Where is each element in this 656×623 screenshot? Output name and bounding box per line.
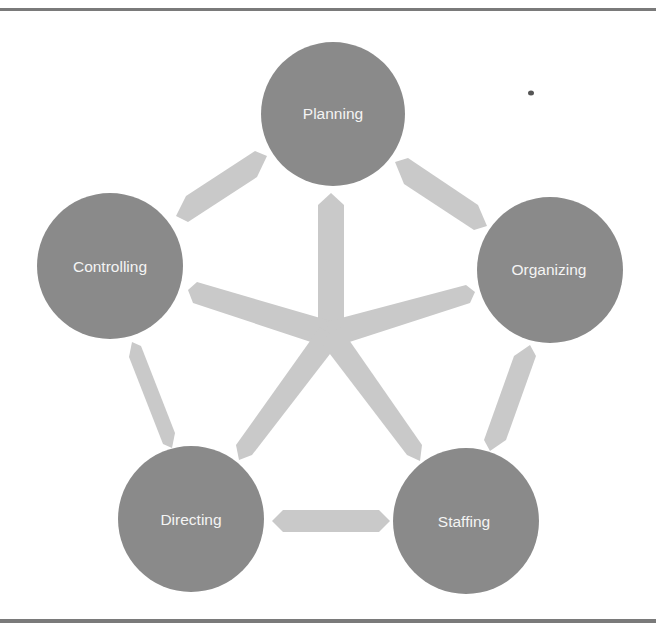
node-label: Directing <box>160 511 221 528</box>
arrow-planning-organizing <box>395 158 487 230</box>
node-label: Organizing <box>512 261 587 278</box>
node-planning: Planning <box>261 42 405 186</box>
node-label: Controlling <box>73 258 147 275</box>
spoke-directing <box>236 327 340 460</box>
speck-artifact <box>528 91 534 96</box>
node-directing: Directing <box>118 446 264 592</box>
node-label: Planning <box>303 105 363 122</box>
arrow-controlling-planning <box>176 151 267 222</box>
hub-spokes <box>188 193 475 461</box>
arrow-organizing-staffing <box>484 345 536 451</box>
node-label: Staffing <box>438 513 490 530</box>
spoke-organizing <box>326 285 475 347</box>
spoke-controlling <box>188 282 334 347</box>
arrow-directing-controlling <box>129 342 175 448</box>
node-controlling: Controlling <box>37 193 183 339</box>
node-organizing: Organizing <box>477 197 623 343</box>
management-functions-diagram: Planning Organizing Staffing Directing C… <box>0 0 656 623</box>
arrow-staffing-directing <box>272 510 390 532</box>
spoke-planning <box>318 193 344 335</box>
spoke-staffing <box>320 327 422 461</box>
node-staffing: Staffing <box>393 448 539 594</box>
